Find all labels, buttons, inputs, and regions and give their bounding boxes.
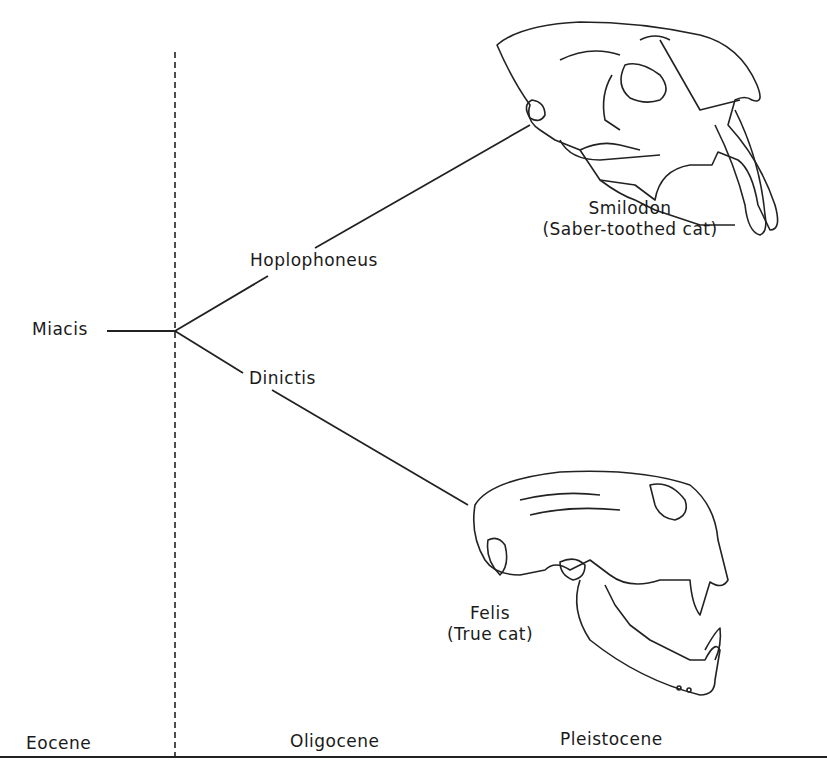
node-label-hoplophoneus: Hoplophoneus (250, 250, 378, 271)
epoch-label-pleistocene: Pleistocene (560, 729, 663, 750)
epoch-label-eocene: Eocene (26, 733, 91, 754)
dinictis-branch-upper (272, 390, 468, 505)
true-cat-skull-illustration (474, 471, 728, 695)
felis-caption: Felis (True cat) (420, 603, 560, 646)
node-sublabel-smilodon: (Saber-toothed cat) (510, 219, 750, 240)
smilodon-caption: Smilodon (Saber-toothed cat) (510, 198, 750, 241)
diagram-lines (0, 0, 827, 780)
node-label-dinictis: Dinictis (249, 368, 316, 389)
hoplophoneus-branch-upper (315, 125, 530, 248)
node-label-felis: Felis (420, 603, 560, 624)
node-label-miacis: Miacis (32, 319, 88, 340)
hoplophoneus-branch-lower (175, 276, 268, 331)
node-label-smilodon: Smilodon (510, 198, 750, 219)
epoch-label-oligocene: Oligocene (290, 731, 380, 752)
dinictis-branch-lower (175, 331, 243, 373)
node-sublabel-felis: (True cat) (420, 624, 560, 645)
